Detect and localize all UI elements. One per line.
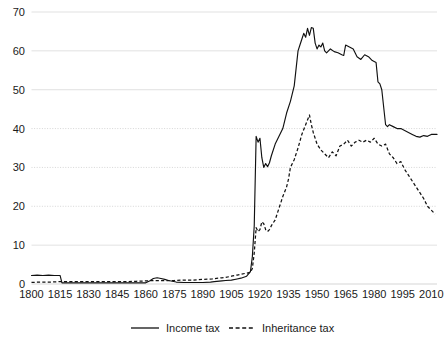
x-tick-label-1995: 1995 (390, 288, 414, 300)
x-tick-label-1935: 1935 (276, 288, 300, 300)
x-tick-label-1845: 1845 (105, 288, 129, 300)
x-tick-label-1965: 1965 (333, 288, 357, 300)
x-tick-label-1980: 1980 (362, 288, 386, 300)
y-tick-label-60: 60 (13, 45, 25, 57)
legend-label-income-tax: Income tax (166, 322, 220, 334)
y-tick-label-10: 10 (13, 239, 25, 251)
data-series (32, 28, 438, 283)
x-tick-label-1905: 1905 (219, 288, 243, 300)
y-tick-label-50: 50 (13, 84, 25, 96)
y-tick-label-40: 40 (13, 123, 25, 135)
chart-legend: Income taxInheritance tax (131, 322, 335, 334)
legend-label-inheritance-tax: Inheritance tax (262, 322, 335, 334)
x-tick-label-1920: 1920 (248, 288, 272, 300)
series-line-inheritance-tax (32, 115, 436, 282)
x-axis-tick-labels: 1800181518301845186018751890190519201935… (19, 288, 443, 300)
x-tick-label-1815: 1815 (48, 288, 72, 300)
x-tick-label-1830: 1830 (76, 288, 100, 300)
series-line-income-tax (32, 28, 438, 283)
gridlines (32, 12, 438, 284)
y-tick-label-20: 20 (13, 200, 25, 212)
tax-rates-line-chart: 010203040506070 180018151830184518601875… (0, 0, 444, 343)
x-tick-label-1860: 1860 (133, 288, 157, 300)
x-tick-label-1800: 1800 (19, 288, 43, 300)
x-tick-label-1875: 1875 (162, 288, 186, 300)
y-tick-label-70: 70 (13, 6, 25, 18)
y-tick-label-30: 30 (13, 161, 25, 173)
x-tick-label-2010: 2010 (419, 288, 443, 300)
x-tick-label-1950: 1950 (305, 288, 329, 300)
y-axis-tick-labels: 010203040506070 (13, 6, 25, 290)
chart-container: 010203040506070 180018151830184518601875… (0, 0, 444, 343)
x-tick-label-1890: 1890 (191, 288, 215, 300)
